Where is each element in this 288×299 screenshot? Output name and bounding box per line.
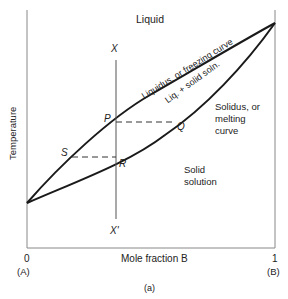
solid-solution-label-line1: Solid bbox=[184, 165, 205, 175]
x-tick-sublabel-a: (A) bbox=[17, 267, 30, 277]
y-axis-label: Temperature bbox=[8, 107, 18, 160]
solidus-label-line1: Solidus, or bbox=[215, 102, 260, 112]
region-liquid-label: Liquid bbox=[136, 14, 164, 25]
solidus-label-line2: melting bbox=[215, 114, 246, 124]
point-x-label: X bbox=[111, 44, 118, 54]
x-tick-1: 1 bbox=[272, 254, 278, 264]
solid-solution-label-line2: solution bbox=[184, 177, 217, 187]
point-p-label: P bbox=[104, 114, 111, 124]
point-q-label: Q bbox=[177, 122, 185, 132]
point-x-prime-label: X' bbox=[110, 226, 119, 236]
figure-caption: (a) bbox=[144, 284, 155, 293]
point-s-label: S bbox=[61, 148, 68, 158]
x-tick-sublabel-b: (B) bbox=[267, 267, 280, 277]
point-r-label: R bbox=[119, 159, 126, 169]
x-axis-label: Mole fraction B bbox=[121, 254, 188, 264]
solidus-label-line3: curve bbox=[215, 126, 238, 136]
x-tick-0: 0 bbox=[24, 254, 30, 264]
